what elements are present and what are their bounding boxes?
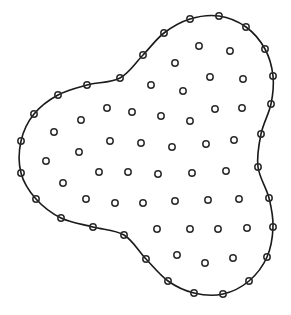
interior-node [231,137,237,143]
interior-node [203,141,209,147]
boundary-curve [19,16,273,296]
interior-node [239,105,245,111]
interior-nodes [43,43,250,266]
interior-node [76,149,82,155]
interior-node [43,158,49,164]
interior-node [174,252,180,258]
interior-node [107,138,113,144]
interior-node [104,105,110,111]
interior-node [169,144,175,150]
interior-node [51,129,57,135]
interior-node [202,260,208,266]
interior-node [172,198,178,204]
interior-node [187,118,193,124]
interior-node [129,109,135,115]
interior-node [138,140,144,146]
interior-node [125,169,131,175]
interior-node [187,226,193,232]
interior-node [148,82,154,88]
interior-node [154,226,160,232]
trefoil-diagram [0,0,291,315]
interior-node [158,113,164,119]
interior-node [230,255,236,261]
interior-node [227,48,233,54]
interior-node [83,196,89,202]
interior-node [180,88,186,94]
interior-node [205,197,211,203]
boundary-nodes [18,13,276,297]
interior-node [223,168,229,174]
interior-node [215,226,221,232]
interior-node [78,117,84,123]
interior-node [212,106,218,112]
interior-node [96,169,102,175]
interior-node [140,200,146,206]
interior-node [155,171,161,177]
interior-node [112,200,118,206]
interior-node [244,225,250,231]
interior-node [189,170,195,176]
interior-node [60,180,66,186]
interior-node [240,76,246,82]
interior-node [172,60,178,66]
interior-node [196,43,202,49]
interior-node [207,74,213,80]
interior-node [236,196,242,202]
